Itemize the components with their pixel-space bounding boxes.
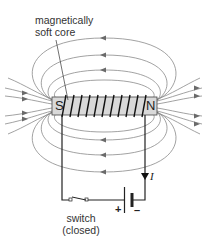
core-label-line2: soft core <box>35 26 93 38</box>
field-lines-left <box>5 78 52 134</box>
current-arrow <box>141 173 149 180</box>
north-pole-label: N <box>146 99 155 112</box>
core-label-line1: magnetically <box>35 14 93 26</box>
core-label: magnetically soft core <box>35 14 93 38</box>
switch-label: switch (closed) <box>62 212 100 236</box>
field-arrows-left <box>22 91 28 122</box>
battery-plus-label: + <box>115 203 121 215</box>
battery-minus-label: – <box>134 204 140 216</box>
field-arrows-top <box>100 36 106 73</box>
switch-label-line1: switch <box>62 212 100 224</box>
south-pole-label: S <box>55 99 64 112</box>
switch-closed[interactable] <box>69 197 88 201</box>
battery <box>125 187 133 213</box>
electromagnet-diagram <box>0 0 207 245</box>
field-arrows-right <box>194 86 200 127</box>
field-lines-bottom <box>32 112 176 172</box>
switch-label-line2: (closed) <box>62 224 100 236</box>
field-arrows-bottom <box>100 138 106 175</box>
label-pointer-line <box>56 40 68 100</box>
current-label: I <box>150 170 154 182</box>
circuit-wires <box>62 115 145 200</box>
